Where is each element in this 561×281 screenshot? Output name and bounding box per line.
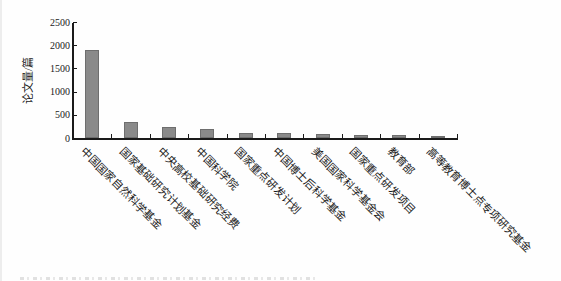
y-axis-tick: [73, 45, 77, 46]
y-axis-title: 论文量/篇: [23, 41, 34, 121]
y-tick-label: 1000: [36, 87, 70, 97]
bar-9: [392, 135, 406, 138]
x-axis-tick: [73, 134, 74, 138]
cropped-caption-remnant: [20, 277, 315, 280]
bar-2: [124, 122, 138, 139]
page-left-edge: [0, 0, 2, 281]
x-tick-label: 中国博士后科学基金: [271, 145, 349, 223]
y-axis-tick: [73, 115, 77, 116]
bar-6: [277, 133, 291, 138]
bar-chart-figure: 论文量/篇 05001000150020002500中国国家自然科学基金国家基础…: [0, 0, 561, 281]
y-axis-tick: [73, 68, 77, 69]
x-axis-tick: [457, 134, 458, 138]
x-axis-tick: [342, 134, 343, 138]
y-tick-label: 2000: [36, 41, 70, 51]
bar-10: [431, 136, 445, 139]
x-axis-tick: [380, 134, 381, 138]
x-tick-label: 国家重点研发计划: [232, 145, 303, 216]
bar-5: [239, 133, 253, 138]
x-tick-label: 国家重点研发项目: [348, 145, 419, 216]
y-tick-label: 500: [36, 110, 70, 120]
x-tick-label: 教育部: [386, 145, 418, 177]
x-tick-label: 美国国家科学基金会: [309, 145, 387, 223]
y-tick-label: 1500: [36, 64, 70, 74]
y-axis-tick: [73, 92, 77, 93]
bar-3: [162, 127, 176, 139]
bar-1: [85, 50, 99, 138]
bar-7: [316, 134, 330, 139]
x-axis-tick: [265, 134, 266, 138]
x-axis-tick: [227, 134, 228, 138]
bar-8: [354, 135, 368, 139]
y-tick-label: 2500: [36, 18, 70, 28]
bar-4: [200, 129, 214, 139]
x-axis-tick: [111, 134, 112, 138]
x-axis-tick: [303, 134, 304, 138]
x-tick-label: 高等教育博士点专项研究基金: [424, 145, 534, 255]
x-axis-tick: [419, 134, 420, 138]
y-axis-line: [72, 23, 74, 140]
y-axis-tick: [73, 138, 77, 139]
x-axis-tick: [188, 134, 189, 138]
x-axis-tick: [150, 134, 151, 138]
y-axis-tick: [73, 22, 77, 23]
y-tick-label: 0: [36, 134, 70, 144]
